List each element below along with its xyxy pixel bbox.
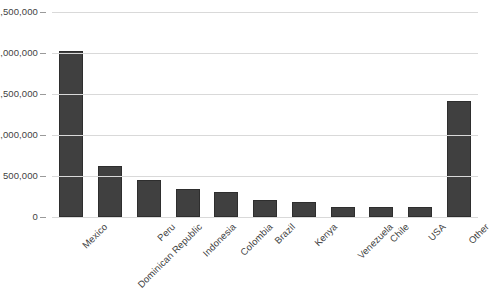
y-tick-mark xyxy=(40,94,46,95)
x-axis: MexicoDominican RepublicPeruIndonesiaCol… xyxy=(52,219,478,299)
gridline xyxy=(52,53,478,54)
y-tick-mark xyxy=(40,12,46,13)
bar[interactable] xyxy=(176,189,200,217)
gridline xyxy=(52,217,478,218)
gridline xyxy=(52,94,478,95)
bar-slot xyxy=(362,12,401,217)
gridline xyxy=(52,12,478,13)
bar-slot xyxy=(323,12,362,217)
bar-slot xyxy=(207,12,246,217)
bar-slot xyxy=(168,12,207,217)
y-tick-label: 500,000 xyxy=(3,171,38,181)
bar[interactable] xyxy=(98,166,122,217)
x-tick-label: Colombia xyxy=(238,221,275,258)
bar-slot xyxy=(129,12,168,217)
bar-slot xyxy=(246,12,285,217)
y-tick-mark xyxy=(40,53,46,54)
y-tick-label: 2,500,000 xyxy=(0,7,38,17)
y-tick-label: 0 xyxy=(33,212,38,222)
bar-series xyxy=(52,12,478,217)
bar-slot xyxy=(439,12,478,217)
y-tick-label: 1,500,000 xyxy=(0,89,38,99)
y-tick-label: 1,000,000 xyxy=(0,130,38,140)
bar[interactable] xyxy=(253,200,277,217)
y-tick-mark xyxy=(40,135,46,136)
gridline xyxy=(52,176,478,177)
bar[interactable] xyxy=(137,180,161,217)
x-tick-label: Venezuela xyxy=(356,221,396,261)
x-tick-label: Other xyxy=(466,221,491,246)
x-tick-label: Mexico xyxy=(80,221,109,250)
x-tick-label: Brazil xyxy=(272,221,297,246)
y-tick-mark xyxy=(40,217,46,218)
bar[interactable] xyxy=(292,202,316,217)
y-tick-label: 2,000,000 xyxy=(0,48,38,58)
x-tick-label: Peru xyxy=(155,221,177,243)
plot-area xyxy=(52,12,478,217)
y-tick-mark xyxy=(40,176,46,177)
bar[interactable] xyxy=(331,207,355,217)
bar-slot xyxy=(91,12,130,217)
bar-slot xyxy=(52,12,91,217)
x-tick-label: Indonesia xyxy=(200,221,238,259)
gridline xyxy=(52,135,478,136)
bar[interactable] xyxy=(408,207,432,217)
bar[interactable] xyxy=(369,207,393,217)
y-axis: 0500,0001,000,0001,500,0002,000,0002,500… xyxy=(0,0,46,299)
bar-slot xyxy=(401,12,440,217)
x-tick-label: USA xyxy=(426,221,448,243)
x-tick-label: Kenya xyxy=(312,221,339,248)
bar[interactable] xyxy=(214,192,238,217)
bar-slot xyxy=(284,12,323,217)
bar[interactable] xyxy=(447,101,471,217)
